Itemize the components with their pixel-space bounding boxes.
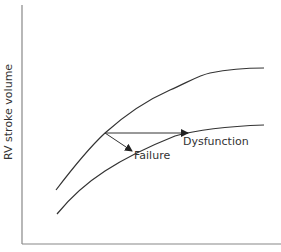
failure-arrow — [105, 133, 132, 151]
failure-label: Failure — [134, 149, 170, 162]
y-axis-label: RV stroke volume — [2, 64, 15, 160]
upper-curve — [56, 68, 264, 190]
dysfunction-label: Dysfunction — [183, 135, 249, 148]
diagram-canvas — [0, 0, 281, 252]
